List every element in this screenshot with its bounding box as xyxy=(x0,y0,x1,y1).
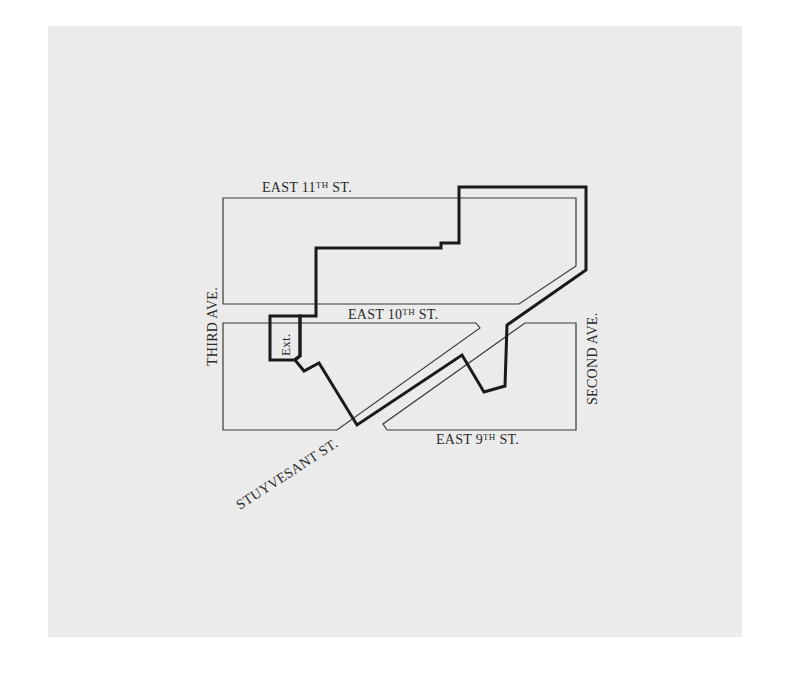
label-east-9th-st: EAST 9TH ST. xyxy=(436,432,519,447)
label-third-ave: THIRD AVE. xyxy=(205,287,220,366)
site-map: EAST 11TH ST. EAST 10TH ST. EAST 9TH ST.… xyxy=(0,0,798,674)
label-east-10th-st: EAST 10TH ST. xyxy=(348,307,438,322)
label-stuyvesant-st: STUYVESANT ST. xyxy=(233,436,340,513)
site-boundary xyxy=(295,187,586,425)
label-second-ave: SECOND AVE. xyxy=(585,312,600,405)
label-east-11th-st: EAST 11TH ST. xyxy=(262,180,352,195)
block-north xyxy=(223,198,576,304)
label-ext: Ext. xyxy=(278,333,293,356)
